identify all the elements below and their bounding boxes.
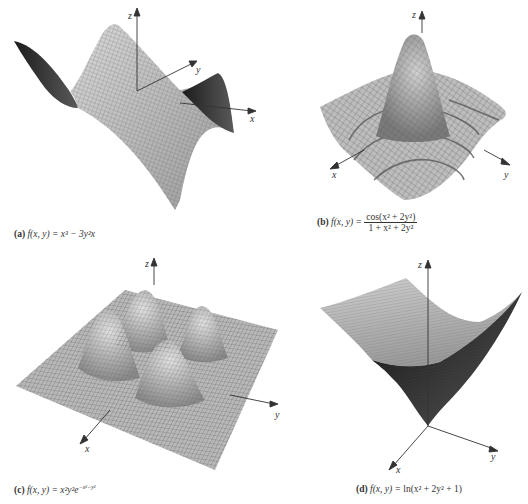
caption-lhs: f(x, y) = (27, 229, 60, 239)
surface-plot-a: z y x (0, 0, 264, 250)
z-axis-label: z (411, 9, 416, 20)
y-axis-label: y (503, 169, 509, 180)
y-axis (428, 426, 494, 449)
caption-exponent: −x²−y² (79, 484, 96, 490)
y-axis-label: y (490, 451, 496, 462)
surface-plot-c: z y x (0, 250, 300, 504)
caption-lhs: f(x, y) = (27, 485, 60, 495)
figure-d: z x y (d) f(x, y) = ln(x² + 2y² + 1) (300, 250, 528, 504)
caption-c: (c) f(x, y) = x²y²e−x²−y² (14, 484, 96, 495)
caption-denominator: 1 + x² + 2y² (364, 223, 417, 233)
caption-lhs: f(x, y) = (331, 217, 364, 227)
caption-b: (b) f(x, y) = cos(x² + 2y²) 1 + x² + 2y² (317, 212, 417, 233)
caption-label: (a) (14, 229, 25, 239)
caption-rhs: ln(x² + 2y² + 1) (403, 484, 462, 494)
figure-b: z x y (b) f(x, y) = cos(x² + 2y²) 1 + x²… (264, 0, 528, 250)
x-axis-label: x (249, 113, 255, 124)
x-axis-label: x (331, 169, 337, 180)
caption-fraction: cos(x² + 2y²) 1 + x² + 2y² (364, 212, 417, 233)
figure-a: z y x (a) f(x, y) = x³ − 3y²x (0, 0, 264, 250)
x-axis-label: x (395, 464, 401, 475)
y-axis-label: y (195, 64, 201, 75)
z-axis-label: z (417, 259, 422, 270)
x-axis-label: x (84, 443, 90, 454)
surface-plot-d: z x y (300, 250, 528, 504)
y-axis-label: y (274, 409, 280, 420)
caption-a: (a) f(x, y) = x³ − 3y²x (14, 229, 95, 239)
caption-base: x²y²e (60, 485, 78, 495)
z-axis-label: z (144, 258, 149, 269)
figure-c: z y x (c) f(x, y) = x²y²e−x²−y² (0, 250, 300, 504)
caption-label: (b) (317, 217, 329, 227)
caption-d: (d) f(x, y) = ln(x² + 2y² + 1) (356, 484, 462, 494)
caption-lhs: f(x, y) = (370, 484, 403, 494)
surface-left-wing (14, 41, 78, 108)
caption-label: (c) (14, 485, 25, 495)
caption-label: (d) (356, 484, 368, 494)
caption-numerator: cos(x² + 2y²) (364, 212, 417, 223)
caption-rhs: x³ − 3y²x (61, 229, 95, 239)
x-axis (393, 426, 428, 466)
z-axis-label: z (127, 10, 132, 21)
